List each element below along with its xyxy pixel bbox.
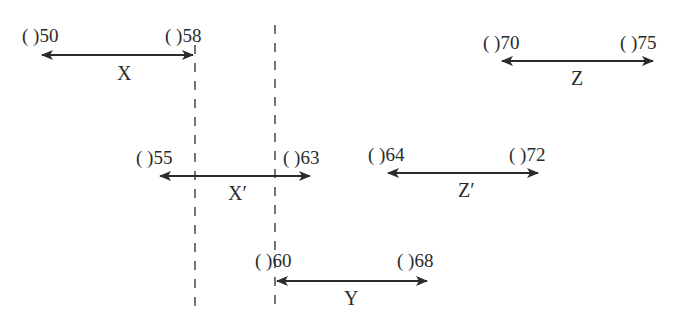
interval-x: ( )50 ( )58 X [22, 25, 201, 84]
interval-z-prime-name: Z′ [458, 179, 475, 201]
interval-diagram: ( )50 ( )58 X ( )70 ( )75 Z ( )55 ( )63 … [0, 0, 687, 322]
interval-z-prime-end-label: ( )72 [509, 144, 545, 166]
interval-z-name: Z [571, 67, 583, 89]
interval-x-prime-start-label: ( )55 [136, 147, 172, 169]
interval-y: ( )60 ( )68 Y [255, 250, 433, 309]
interval-x-name: X [117, 62, 132, 84]
interval-z-end-label: ( )75 [620, 32, 656, 54]
interval-z-start-label: ( )70 [483, 32, 519, 54]
interval-x-prime-end-label: ( )63 [283, 147, 319, 169]
interval-z-prime: ( )64 ( )72 Z′ [368, 144, 545, 201]
interval-x-prime: ( )55 ( )63 X′ [136, 147, 319, 204]
interval-x-prime-name: X′ [228, 182, 247, 204]
interval-z-prime-start-label: ( )64 [368, 144, 405, 166]
interval-x-start-label: ( )50 [22, 25, 58, 47]
interval-y-start-label: ( )60 [255, 250, 291, 272]
interval-z: ( )70 ( )75 Z [483, 32, 656, 89]
interval-x-end-label: ( )58 [165, 25, 201, 47]
interval-y-name: Y [344, 287, 358, 309]
interval-y-end-label: ( )68 [397, 250, 433, 272]
